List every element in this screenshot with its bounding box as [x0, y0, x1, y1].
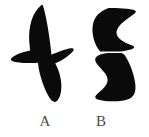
shape-a-label: A: [33, 112, 57, 130]
caption-row: A B: [0, 108, 149, 137]
shape-b-label: B: [89, 112, 113, 130]
figure-container: A B: [0, 0, 149, 137]
